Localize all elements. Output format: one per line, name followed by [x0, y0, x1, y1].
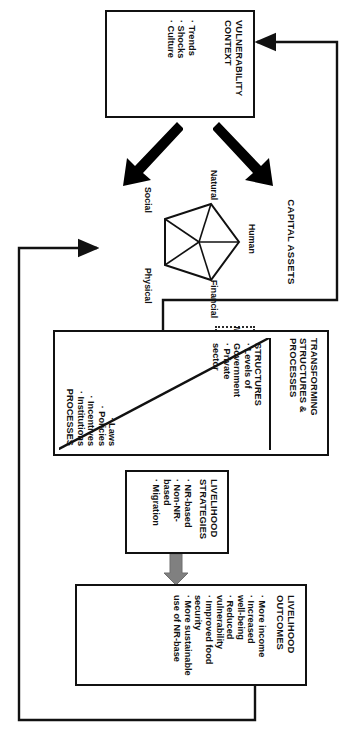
processes-bullets: · Laws · Policies · Incentives · Institu… [75, 389, 117, 446]
vulnerability-context-title: VULNERABILITY CONTEXT [223, 20, 244, 112]
livelihood-outcomes-title: LIVELIHOOD OUTCOMES [275, 595, 296, 653]
vulnerability-context-box: VULNERABILITY CONTEXT · Trends · Shocks … [105, 10, 255, 118]
livelihood-strategies-box: LIVELIHOOD STRATEGIES · NR-based · Non-N… [125, 470, 229, 554]
livelihood-outcomes-box: LIVELIHOOD OUTCOMES · More income · Incr… [75, 584, 307, 686]
vulnerability-context-bullets: · Trends · Shocks · Culture [165, 20, 197, 58]
transforming-inner: STRUCTURES · Levels of Government · Priv… [59, 338, 271, 450]
processes-heading: PROCESSES [65, 389, 75, 446]
processes-group: · Laws · Policies · Incentives · Institu… [65, 389, 117, 446]
transforming-title: TRANSFORMING STRUCTURES & PROCESSES [287, 338, 319, 452]
structures-bullets: · Levels of Government · Private sector [211, 343, 253, 406]
livelihood-outcomes-bullets: · More income · Increased well-being · R… [172, 595, 267, 676]
asset-label-physical: Physical [143, 268, 153, 304]
capital-assets-pentagon [161, 202, 241, 282]
asset-label-human: Human [247, 224, 257, 254]
transforming-structures-processes-box: TRANSFORMING STRUCTURES & PROCESSES STRU… [53, 330, 329, 456]
livelihood-strategies-bullets: · NR-based · Non-NR- based · Migration [151, 479, 193, 528]
asset-label-financial: Financial [209, 280, 219, 318]
structures-group: STRUCTURES · Levels of Government · Priv… [211, 343, 263, 406]
diagram-canvas: Influence VULNERABILITY CONTEXT · Trends… [0, 0, 359, 739]
capital-assets-title: CAPITAL ASSETS [286, 168, 297, 316]
diagram-stage: Influence VULNERABILITY CONTEXT · Trends… [0, 0, 359, 739]
capital-assets-group: CAPITAL ASSETS Human Financial Physical … [101, 168, 297, 316]
asset-label-natural: Natural [209, 170, 219, 200]
structures-heading: STRUCTURES [253, 343, 263, 406]
strategies-to-outcomes-arrow [161, 554, 191, 586]
asset-label-social: Social [143, 187, 153, 213]
livelihood-strategies-title: LIVELIHOOD STRATEGIES [198, 479, 219, 539]
